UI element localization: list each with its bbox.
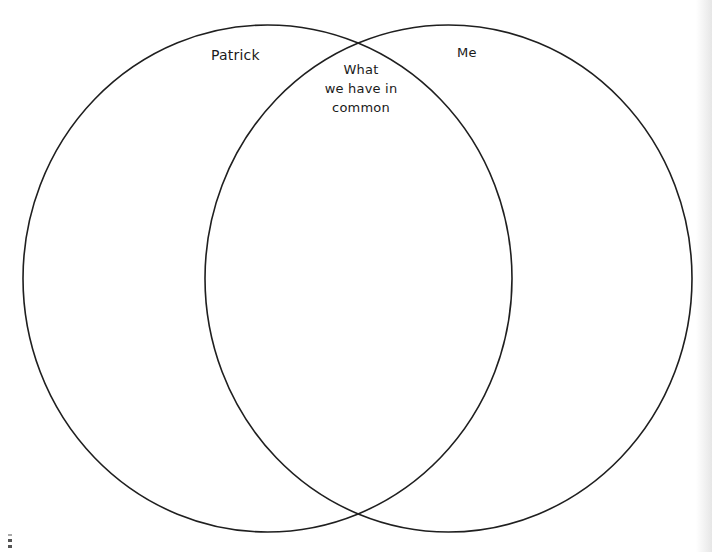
venn-diagram-canvas: Patrick Me What we have in common [0,0,712,552]
clipped-edge-mark [6,534,14,552]
set-label-patrick: Patrick [211,46,260,65]
intersection-label: What we have in common [311,60,411,117]
circle-me [205,25,692,532]
intersection-label-line-3: common [311,98,411,117]
set-label-me: Me [457,43,477,62]
circle-patrick [23,25,512,532]
intersection-label-line-2: we have in [311,79,411,98]
intersection-label-line-1: What [311,60,411,79]
